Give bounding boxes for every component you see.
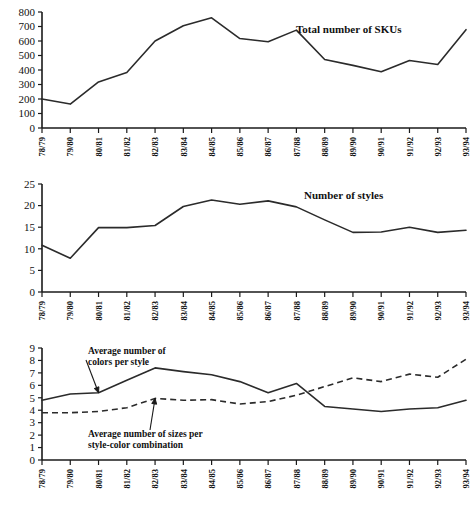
x-tick-label: 83/84	[179, 300, 189, 320]
y-tick-label: 3	[30, 416, 36, 428]
x-tick-label: 92/93	[433, 469, 443, 488]
x-tick-label: 86/87	[263, 300, 273, 320]
sizes-annotation-line1: Average number of sizes per	[88, 429, 203, 439]
colors-annotation-line2: colors per style	[88, 357, 149, 367]
y-tick-label: 2	[30, 429, 36, 441]
x-tick-label: 81/82	[122, 137, 132, 156]
y-tick-label: 400	[19, 64, 36, 76]
y-tick-label: 1	[30, 441, 36, 453]
chart-title: Total number of SKUs	[296, 23, 402, 35]
averages-plot: 012345678978/7979/8080/8181/8282/8383/84…	[0, 332, 475, 510]
y-tick-label: 15	[24, 221, 36, 233]
y-tick-label: 6	[30, 379, 36, 391]
series-line-2	[42, 359, 466, 413]
x-tick-label: 88/89	[320, 469, 330, 488]
x-tick-label: 91/92	[405, 137, 415, 156]
y-tick-label: 0	[30, 286, 36, 298]
y-tick-label: 8	[30, 354, 36, 366]
x-tick-label: 84/85	[207, 301, 217, 320]
x-tick-label: 91/92	[405, 301, 415, 320]
x-tick-label: 79/80	[65, 469, 75, 488]
x-tick-label: 93/94	[461, 136, 471, 156]
x-tick-label: 93/94	[461, 300, 471, 320]
x-tick-label: 84/85	[207, 469, 217, 488]
y-tick-label: 700	[19, 20, 36, 32]
x-tick-label: 83/84	[179, 136, 189, 156]
x-tick-label: 82/83	[150, 469, 160, 488]
x-tick-label: 82/83	[150, 301, 160, 320]
x-tick-label: 86/87	[263, 468, 273, 488]
x-tick-label: 80/81	[94, 469, 104, 488]
y-tick-label: 9	[30, 342, 36, 354]
y-tick-label: 25	[24, 178, 36, 190]
x-tick-label: 87/88	[292, 469, 302, 488]
y-tick-label: 100	[19, 107, 36, 119]
x-tick-label: 87/88	[292, 137, 302, 156]
x-tick-label: 88/89	[320, 301, 330, 320]
y-tick-label: 200	[19, 93, 36, 105]
x-tick-label: 81/82	[122, 301, 132, 320]
colors-annotation-line1: Average number of	[88, 346, 167, 356]
x-tick-label: 79/80	[65, 301, 75, 320]
x-tick-label: 85/86	[235, 469, 245, 488]
skus-plot: 010020030040050060070080078/7979/8080/81…	[0, 0, 475, 172]
chart-panel-styles: 051015202578/7979/8080/8181/8282/8383/84…	[0, 172, 475, 332]
x-tick-label: 81/82	[122, 469, 132, 488]
y-tick-label: 800	[19, 6, 36, 18]
y-tick-label: 300	[19, 78, 36, 90]
x-tick-label: 87/88	[292, 301, 302, 320]
x-tick-label: 85/86	[235, 301, 245, 320]
sizes-annotation-line2: style-color combination	[88, 440, 184, 450]
x-tick-label: 92/93	[433, 301, 443, 320]
x-tick-label: 89/90	[348, 469, 358, 488]
x-tick-label: 78/79	[37, 469, 47, 488]
y-tick-label: 20	[24, 199, 36, 211]
y-tick-label: 4	[30, 404, 36, 416]
chart-panel-skus: 010020030040050060070080078/7979/8080/81…	[0, 0, 475, 172]
x-tick-label: 79/80	[65, 137, 75, 156]
x-tick-label: 91/92	[405, 469, 415, 488]
x-tick-label: 84/85	[207, 137, 217, 156]
x-tick-label: 92/93	[433, 137, 443, 156]
x-tick-label: 90/91	[376, 301, 386, 320]
x-tick-label: 78/79	[37, 301, 47, 320]
x-tick-label: 86/87	[263, 136, 273, 156]
y-tick-label: 10	[24, 243, 36, 255]
y-tick-label: 0	[30, 122, 36, 134]
x-tick-label: 89/90	[348, 137, 358, 156]
x-tick-label: 93/94	[461, 468, 471, 488]
colors-annotation-arrowhead	[94, 387, 99, 393]
x-tick-label: 90/91	[376, 469, 386, 488]
x-tick-label: 83/84	[179, 468, 189, 488]
x-tick-label: 78/79	[37, 137, 47, 156]
x-tick-label: 80/81	[94, 301, 104, 320]
y-tick-label: 500	[19, 49, 36, 61]
chart-title: Number of styles	[304, 189, 384, 201]
x-tick-label: 82/83	[150, 137, 160, 156]
series-line-1	[42, 368, 466, 412]
x-tick-label: 90/91	[376, 137, 386, 156]
chart-panel-averages: 012345678978/7979/8080/8181/8282/8383/84…	[0, 332, 475, 510]
y-tick-label: 5	[30, 264, 36, 276]
y-tick-label: 5	[30, 392, 36, 404]
x-tick-label: 80/81	[94, 137, 104, 156]
y-tick-label: 0	[30, 454, 36, 466]
styles-plot: 051015202578/7979/8080/8181/8282/8383/84…	[0, 172, 475, 332]
x-tick-label: 89/90	[348, 301, 358, 320]
x-tick-label: 88/89	[320, 137, 330, 156]
y-tick-label: 7	[30, 367, 36, 379]
y-tick-label: 600	[19, 35, 36, 47]
series-line-1	[42, 18, 466, 104]
series-line-1	[42, 200, 466, 258]
x-tick-label: 85/86	[235, 137, 245, 156]
